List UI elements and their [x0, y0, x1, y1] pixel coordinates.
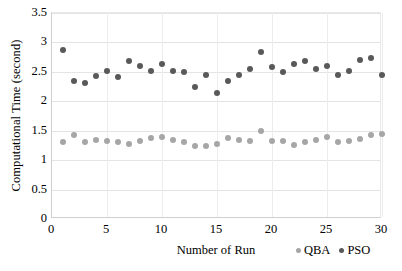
- scatter-chart: Computational Time (second) 00.511.522.5…: [0, 0, 402, 271]
- y-axis-tick-label: 0.5: [3, 183, 47, 196]
- data-point-pso[interactable]: [71, 78, 77, 84]
- y-axis-tick-label: 3: [3, 35, 47, 48]
- x-axis-tick-label: 25: [306, 223, 346, 236]
- data-point-pso[interactable]: [104, 68, 110, 74]
- plot-area: [51, 12, 381, 218]
- data-point-qba[interactable]: [247, 138, 253, 144]
- y-axis-tick-label: 1.5: [3, 124, 47, 137]
- data-point-qba[interactable]: [137, 138, 143, 144]
- data-point-qba[interactable]: [93, 137, 99, 143]
- data-point-pso[interactable]: [236, 72, 242, 78]
- data-point-pso[interactable]: [313, 66, 319, 72]
- gridline-vertical: [382, 13, 383, 217]
- legend-marker-pso-icon: [339, 248, 344, 253]
- data-point-qba[interactable]: [269, 138, 275, 144]
- data-point-qba[interactable]: [203, 143, 209, 149]
- gridline-horizontal: [52, 160, 380, 161]
- data-point-qba[interactable]: [214, 141, 220, 147]
- data-point-pso[interactable]: [159, 61, 165, 67]
- data-point-qba[interactable]: [115, 139, 121, 145]
- chart-legend: QBA PSO: [296, 243, 370, 258]
- data-point-pso[interactable]: [181, 69, 187, 75]
- legend-item-qba[interactable]: QBA: [296, 243, 330, 258]
- gridline-vertical: [327, 13, 328, 217]
- data-point-pso[interactable]: [137, 63, 143, 69]
- data-point-pso[interactable]: [115, 74, 121, 80]
- data-point-qba[interactable]: [104, 138, 110, 144]
- data-point-qba[interactable]: [346, 138, 352, 144]
- gridline-vertical: [162, 13, 163, 217]
- gridline-horizontal: [52, 72, 380, 73]
- data-point-qba[interactable]: [148, 135, 154, 141]
- data-point-qba[interactable]: [236, 137, 242, 143]
- gridline-vertical: [272, 13, 273, 217]
- gridline-vertical: [107, 13, 108, 217]
- data-point-qba[interactable]: [357, 136, 363, 142]
- data-point-pso[interactable]: [379, 72, 385, 78]
- x-axis-tick-label: 10: [141, 223, 181, 236]
- x-axis-tick-label: 15: [196, 223, 236, 236]
- data-point-pso[interactable]: [148, 68, 154, 74]
- gridline-horizontal: [52, 101, 380, 102]
- gridline-horizontal: [52, 42, 380, 43]
- data-point-pso[interactable]: [247, 66, 253, 72]
- data-point-pso[interactable]: [126, 58, 132, 64]
- y-axis-tick-label: 2.5: [3, 65, 47, 78]
- data-point-qba[interactable]: [82, 139, 88, 145]
- data-point-qba[interactable]: [192, 143, 198, 149]
- data-point-pso[interactable]: [335, 72, 341, 78]
- data-point-pso[interactable]: [346, 68, 352, 74]
- data-point-pso[interactable]: [225, 78, 231, 84]
- x-axis-tick-label: 20: [251, 223, 291, 236]
- gridline-horizontal: [52, 190, 380, 191]
- y-axis-tick-label: 1: [3, 153, 47, 166]
- data-point-pso[interactable]: [368, 55, 374, 61]
- gridline-horizontal: [52, 131, 380, 132]
- gridline-horizontal: [52, 13, 380, 14]
- y-axis-tick-label: 3.5: [3, 6, 47, 19]
- data-point-pso[interactable]: [357, 57, 363, 63]
- data-point-qba[interactable]: [368, 132, 374, 138]
- data-point-pso[interactable]: [93, 73, 99, 79]
- legend-item-pso[interactable]: PSO: [339, 243, 370, 258]
- data-point-pso[interactable]: [192, 84, 198, 90]
- x-axis-tick-label: 5: [86, 223, 126, 236]
- data-point-qba[interactable]: [181, 139, 187, 145]
- data-point-pso[interactable]: [203, 72, 209, 78]
- data-point-qba[interactable]: [302, 139, 308, 145]
- data-point-qba[interactable]: [324, 134, 330, 140]
- x-axis-tick-label: 0: [31, 223, 71, 236]
- legend-label-qba: QBA: [304, 243, 330, 258]
- data-point-qba[interactable]: [60, 139, 66, 145]
- data-point-pso[interactable]: [258, 49, 264, 55]
- data-point-pso[interactable]: [269, 64, 275, 70]
- data-point-qba[interactable]: [258, 128, 264, 134]
- gridline-vertical: [217, 13, 218, 217]
- data-point-qba[interactable]: [71, 132, 77, 138]
- legend-marker-qba-icon: [296, 248, 301, 253]
- data-point-qba[interactable]: [313, 137, 319, 143]
- y-axis-tick-label: 2: [3, 94, 47, 107]
- data-point-qba[interactable]: [225, 135, 231, 141]
- x-axis-tick-labels: 051015202530: [0, 223, 402, 241]
- data-point-pso[interactable]: [302, 58, 308, 64]
- data-point-pso[interactable]: [60, 47, 66, 53]
- data-point-qba[interactable]: [159, 134, 165, 140]
- data-point-pso[interactable]: [214, 90, 220, 96]
- data-point-qba[interactable]: [170, 137, 176, 143]
- data-point-pso[interactable]: [324, 63, 330, 69]
- data-point-pso[interactable]: [170, 68, 176, 74]
- data-point-qba[interactable]: [379, 131, 385, 137]
- x-axis-tick-label: 30: [361, 223, 401, 236]
- data-point-qba[interactable]: [335, 139, 341, 145]
- data-point-qba[interactable]: [291, 142, 297, 148]
- data-point-pso[interactable]: [291, 61, 297, 67]
- legend-label-pso: PSO: [347, 243, 370, 258]
- data-point-qba[interactable]: [126, 141, 132, 147]
- x-axis-title: Number of Run: [131, 243, 301, 258]
- data-point-qba[interactable]: [280, 138, 286, 144]
- data-point-pso[interactable]: [280, 69, 286, 75]
- data-point-pso[interactable]: [82, 80, 88, 86]
